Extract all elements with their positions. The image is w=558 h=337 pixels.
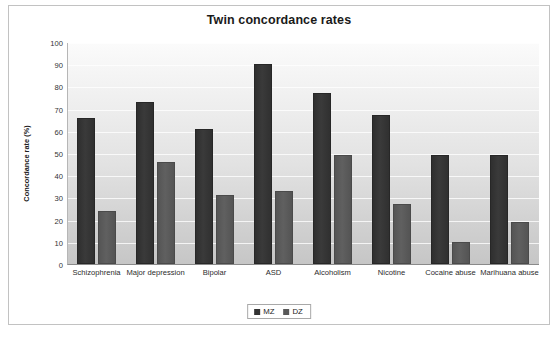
y-axis-tick-label: 70	[17, 105, 63, 114]
x-axis-tick-label: Cocaine abuse	[421, 268, 480, 279]
bar-dz[interactable]	[511, 222, 529, 264]
bar-mz[interactable]	[490, 155, 508, 264]
x-axis-tick-label: Bipolar	[185, 268, 244, 279]
y-axis-tick-label: 60	[17, 127, 63, 136]
legend-item-dz[interactable]: DZ	[283, 307, 302, 316]
x-axis-tick-label: Alcoholism	[303, 268, 362, 279]
bar-dz[interactable]	[334, 155, 352, 264]
bar-dz[interactable]	[452, 242, 470, 264]
bar-group	[363, 43, 422, 264]
legend-swatch-icon	[283, 309, 289, 315]
chart-title: Twin concordance rates	[9, 13, 549, 27]
chart-legend: MZDZ	[247, 304, 311, 319]
bar-dz[interactable]	[393, 204, 411, 264]
y-axis-tick-label: 50	[17, 150, 63, 159]
bar-group	[481, 43, 539, 264]
y-axis-tick-label: 0	[17, 261, 63, 270]
y-axis-tick-label: 80	[17, 83, 63, 92]
y-axis-tick-labels: 1009080706050403020100	[13, 43, 63, 265]
legend-swatch-icon	[254, 309, 260, 315]
x-axis-tick-label: Schizophrenia	[67, 268, 126, 279]
bar-mz[interactable]	[431, 155, 449, 264]
x-axis-tick-label: ASD	[244, 268, 303, 279]
y-axis-tick-label: 100	[17, 39, 63, 48]
bar-dz[interactable]	[216, 195, 234, 264]
bar-dz[interactable]	[157, 162, 175, 264]
x-axis-tick-labels: SchizophreniaMajor depressionBipolarASDA…	[67, 268, 539, 302]
bar-group	[245, 43, 304, 264]
bar-group	[304, 43, 363, 264]
plot-area	[67, 43, 539, 265]
y-axis-tick-label: 40	[17, 172, 63, 181]
chart-container: Twin concordance rates Concordance rate …	[8, 5, 550, 325]
legend-label: DZ	[292, 307, 302, 316]
bar-dz[interactable]	[98, 211, 116, 264]
bar-dz[interactable]	[275, 191, 293, 264]
legend-label: MZ	[263, 307, 274, 316]
x-axis-tick-label: Nicotine	[362, 268, 421, 279]
bar-mz[interactable]	[136, 102, 154, 264]
bar-mz[interactable]	[254, 64, 272, 264]
bar-mz[interactable]	[372, 115, 390, 264]
x-axis-tick-label: Marihuana abuse	[480, 268, 539, 279]
bar-mz[interactable]	[313, 93, 331, 264]
y-axis-tick-label: 20	[17, 216, 63, 225]
bar-group	[422, 43, 481, 264]
y-axis-tick-label: 30	[17, 194, 63, 203]
bar-group	[186, 43, 245, 264]
bar-mz[interactable]	[77, 118, 95, 264]
bar-mz[interactable]	[195, 129, 213, 264]
bar-group	[68, 43, 127, 264]
legend-item-mz[interactable]: MZ	[254, 307, 274, 316]
y-axis-tick-label: 10	[17, 238, 63, 247]
bar-group	[127, 43, 186, 264]
y-axis-tick-label: 90	[17, 61, 63, 70]
x-axis-tick-label: Major depression	[126, 268, 185, 279]
